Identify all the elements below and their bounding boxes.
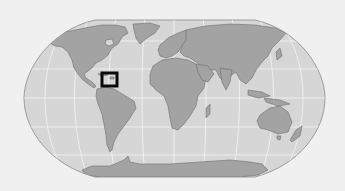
- world-map: [0, 0, 345, 191]
- world-map-svg: [0, 0, 345, 191]
